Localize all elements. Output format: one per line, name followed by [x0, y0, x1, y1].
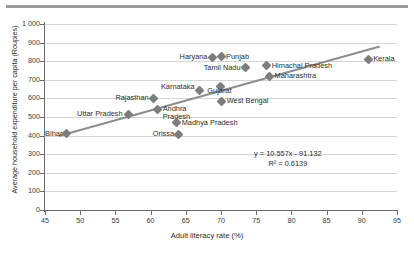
- x-tick-mark: [291, 210, 292, 215]
- data-point-marker[interactable]: [216, 52, 226, 62]
- x-axis-title: Adult literacy rate (%): [0, 231, 414, 240]
- data-point-marker[interactable]: [262, 61, 272, 71]
- y-tick-mark: [40, 98, 44, 99]
- y-tick-mark: [40, 210, 44, 211]
- y-tick-label: 700: [0, 76, 40, 83]
- y-tick-label: 300: [0, 150, 40, 157]
- data-point-marker[interactable]: [241, 63, 251, 73]
- data-point-label: Bihar: [45, 130, 62, 138]
- y-tick-label: 400: [0, 132, 40, 139]
- data-point-marker[interactable]: [61, 129, 71, 139]
- data-point-label: Himachal Pradesh: [272, 62, 332, 70]
- x-tick-label: 75: [244, 217, 268, 225]
- y-tick-mark: [40, 80, 44, 81]
- y-axis-title: Average household expenditure per capita…: [10, 15, 19, 205]
- y-tick-mark: [40, 24, 44, 25]
- y-tick-label: 1 000: [0, 20, 40, 27]
- x-tick-mark: [362, 210, 363, 215]
- data-point-label: Tamil Nadu: [204, 64, 241, 72]
- gridline: [45, 191, 397, 192]
- y-tick-mark: [40, 117, 44, 118]
- y-tick-mark: [40, 61, 44, 62]
- data-point-label: Madhya Pradesh: [182, 119, 238, 127]
- header-rule: [6, 5, 408, 8]
- data-point-label: Karnataka: [161, 83, 195, 91]
- gridline: [45, 136, 397, 137]
- y-tick-label: 200: [0, 169, 40, 176]
- gridline: [45, 80, 397, 81]
- y-tick-mark: [40, 154, 44, 155]
- y-tick-label: 800: [0, 57, 40, 64]
- data-point-label: Orissa: [153, 130, 174, 138]
- x-tick-mark: [186, 210, 187, 215]
- x-tick-mark: [80, 210, 81, 215]
- scatter-chart: 01002003004005006007008009001 000 455055…: [0, 0, 414, 262]
- x-tick-label: 70: [209, 217, 233, 225]
- data-point-label: West Bengal: [227, 97, 269, 105]
- gridline: [45, 43, 397, 44]
- x-tick-label: 80: [279, 217, 303, 225]
- data-point-marker[interactable]: [148, 93, 158, 103]
- x-tick-mark: [45, 210, 46, 215]
- data-point-label: Rajasthan: [115, 94, 148, 102]
- x-tick-mark: [151, 210, 152, 215]
- y-tick-label: 900: [0, 39, 40, 46]
- x-tick-label: 45: [33, 217, 57, 225]
- x-tick-mark: [115, 210, 116, 215]
- x-tick-label: 85: [315, 217, 339, 225]
- x-tick-label: 90: [350, 217, 374, 225]
- y-tick-mark: [40, 43, 44, 44]
- x-tick-mark: [327, 210, 328, 215]
- x-tick-mark: [221, 210, 222, 215]
- data-point-marker[interactable]: [174, 129, 184, 139]
- x-tick-label: 50: [68, 217, 92, 225]
- y-tick-mark: [40, 173, 44, 174]
- x-tick-label: 55: [103, 217, 127, 225]
- x-tick-label: 60: [139, 217, 163, 225]
- y-tick-mark: [40, 191, 44, 192]
- y-tick-mark: [40, 136, 44, 137]
- gridline: [45, 173, 397, 174]
- gridline: [45, 154, 397, 155]
- y-axis-line: [44, 22, 45, 212]
- regression-r2: R² = 0.6139: [238, 159, 338, 169]
- y-tick-label: 0: [0, 206, 40, 213]
- data-point-label: Uttar Pradesh: [77, 110, 123, 118]
- regression-equation: y = 10.557x - 91.132: [238, 149, 338, 159]
- x-tick-mark: [397, 210, 398, 215]
- y-tick-label: 500: [0, 113, 40, 120]
- y-tick-label: 100: [0, 187, 40, 194]
- regression-annotation: y = 10.557x - 91.132 R² = 0.6139: [238, 149, 338, 168]
- y-tick-label: 600: [0, 94, 40, 101]
- x-tick-label: 65: [174, 217, 198, 225]
- data-point-label: Maharashtra: [275, 72, 317, 80]
- x-tick-label: 95: [385, 217, 409, 225]
- x-tick-mark: [256, 210, 257, 215]
- data-point-label: Haryana: [180, 53, 208, 61]
- data-point-label: Gujarat: [207, 87, 231, 95]
- gridline: [45, 24, 397, 25]
- data-point-label: Kerala: [373, 55, 394, 63]
- data-point-label: Punjab: [226, 53, 249, 61]
- data-point-marker[interactable]: [363, 54, 373, 64]
